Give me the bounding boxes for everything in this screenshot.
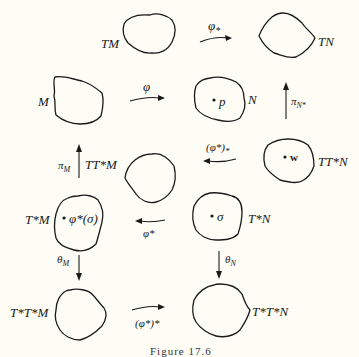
label-map-phi-star-star: (φ*)* bbox=[135, 318, 159, 329]
blob-TstarTstarN bbox=[193, 284, 250, 337]
label-TstarTstarM: T*T*M bbox=[10, 306, 48, 319]
arrowhead-theta-N bbox=[216, 271, 222, 279]
label-M: M bbox=[38, 95, 49, 108]
label-point-p: p bbox=[219, 95, 226, 108]
blob-M bbox=[54, 76, 103, 124]
blob-TM bbox=[123, 14, 175, 53]
arrow-phi bbox=[130, 97, 160, 101]
label-map-theta-N: θN bbox=[225, 254, 236, 268]
arrow-phi-lower-star bbox=[200, 38, 228, 43]
label-TN: TN bbox=[318, 35, 334, 48]
label-TstarTstarN: T*T*N bbox=[252, 305, 288, 318]
arrowhead-phi-star-star bbox=[158, 304, 165, 310]
label-map-pi-M: πM bbox=[58, 160, 70, 174]
arrowhead-phi-star-push bbox=[203, 158, 210, 164]
figure-caption: Figure 17.6 bbox=[150, 345, 212, 357]
arrowhead-phi bbox=[158, 95, 165, 101]
label-TstarN: T*N bbox=[248, 212, 270, 225]
label-TTstarN: TT*N bbox=[318, 155, 348, 168]
label-point-phi-star-sigma: φ*(σ) bbox=[69, 212, 98, 225]
arrow-phi-star-push bbox=[208, 159, 236, 162]
arrowhead-phi-lower-star bbox=[225, 35, 232, 41]
arrowhead-pi-N-star bbox=[283, 82, 289, 90]
blob-TTstarM bbox=[125, 154, 175, 203]
arrowhead-pi-M bbox=[76, 144, 82, 152]
label-map-phi-star-push: (φ*)* bbox=[206, 142, 229, 156]
blob-TTstarN bbox=[264, 139, 314, 183]
arrow-phi-star-star bbox=[132, 306, 160, 310]
label-TM: TM bbox=[101, 37, 119, 50]
label-map-phi-pullback: φ* bbox=[143, 228, 155, 239]
point-p-dot bbox=[212, 98, 215, 101]
label-TstarM: T*M bbox=[25, 213, 50, 226]
label-map-theta-M: θM bbox=[57, 254, 69, 268]
label-N: N bbox=[248, 93, 257, 106]
point-w-dot bbox=[283, 155, 286, 158]
label-map-phi: φ bbox=[143, 80, 150, 93]
label-map-pi-N-star: πN* bbox=[291, 96, 306, 110]
label-map-phi-lower-star: φ* bbox=[208, 19, 220, 36]
arrowhead-phi-pullback bbox=[135, 218, 142, 224]
point-sigma-dot bbox=[210, 214, 213, 217]
blob-TstarTstarM bbox=[55, 289, 106, 340]
label-point-w: w bbox=[290, 152, 298, 163]
arrow-phi-pullback bbox=[140, 220, 165, 222]
label-TTstarM: TT*M bbox=[85, 158, 117, 171]
blob-TN bbox=[259, 13, 315, 58]
arrowhead-theta-M bbox=[76, 273, 82, 281]
label-point-sigma: σ bbox=[217, 210, 223, 223]
point-phi-star-sigma-dot bbox=[62, 216, 65, 219]
